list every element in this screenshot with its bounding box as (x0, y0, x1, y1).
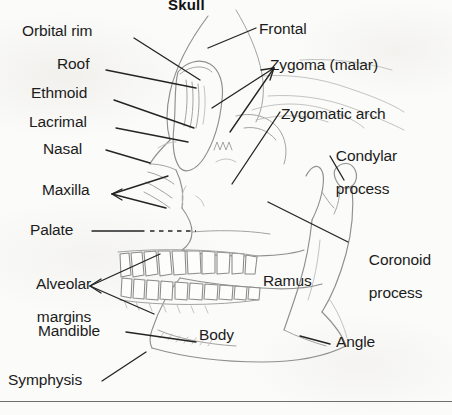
leader-nasal (106, 150, 150, 163)
leader-mandible (126, 332, 196, 342)
label-coronoid-process: Coronoid process (352, 235, 431, 318)
label-coronoid-line2: process (369, 284, 423, 301)
leader-maxilla (112, 176, 168, 208)
leader-zygoma (212, 68, 274, 132)
label-orbital-rim: Orbital rim (22, 22, 92, 39)
label-palate: Palate (30, 221, 73, 238)
leader-lacrimal (116, 128, 188, 142)
label-maxilla: Maxilla (42, 181, 90, 198)
label-zygoma: Zygoma (malar) (270, 56, 378, 73)
figure-title: Skull (168, 0, 205, 13)
label-condylar-process: Condylar process (319, 131, 397, 214)
maxilla (182, 186, 304, 256)
label-zygomatic-arch: Zygomatic arch (281, 105, 386, 122)
label-frontal: Frontal (259, 20, 307, 37)
label-roof: Roof (57, 55, 89, 72)
label-alveolar-line1: Alveolar (36, 275, 91, 292)
label-body: Body (199, 326, 234, 343)
leader-orbital-rim (134, 38, 200, 80)
label-condylar-line1: Condylar (336, 147, 397, 164)
label-symphysis: Symphysis (8, 371, 82, 388)
label-condylar-line2: process (336, 180, 390, 197)
leader-symphysis (102, 352, 146, 381)
skull-diagram-figure: .bone { fill:none; stroke:#8f8f8f; strok… (0, 0, 452, 415)
leader-zygomatic-arch (232, 112, 280, 184)
label-coronoid-line1: Coronoid (369, 251, 431, 268)
footer-rule (0, 401, 452, 402)
label-angle: Angle (336, 333, 375, 350)
orbit (173, 61, 222, 171)
label-lacrimal: Lacrimal (29, 113, 87, 130)
nasal-region (144, 140, 236, 208)
leader-ethmoid (114, 100, 194, 128)
label-ethmoid: Ethmoid (31, 84, 87, 101)
label-ramus: Ramus (263, 272, 312, 289)
leader-frontal (208, 28, 256, 48)
label-mandible: Mandible (38, 322, 100, 339)
label-nasal: Nasal (43, 140, 82, 157)
